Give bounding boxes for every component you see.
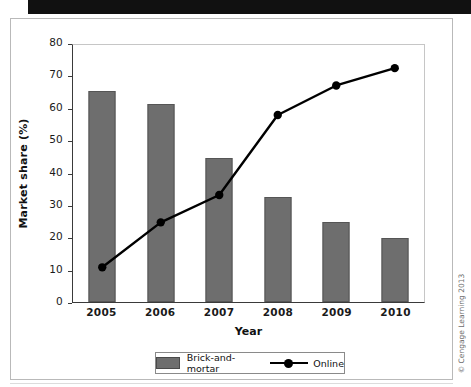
y-axis-tick-label: 60 <box>49 101 63 113</box>
online-line-path <box>102 68 395 267</box>
x-axis-tick-label: 2006 <box>131 306 190 322</box>
x-axis-tick-label: 2007 <box>190 306 249 322</box>
y-axis-tick-label: 40 <box>49 166 63 178</box>
line-series-online <box>73 45 424 302</box>
market-share-chart: Market share (%) 01020304050607080 20052… <box>0 0 471 387</box>
legend-label-brick-and-mortar: Brick-and-mortar <box>187 352 264 374</box>
legend-swatch-bar <box>156 357 180 369</box>
online-marker-2007 <box>215 191 223 199</box>
y-axis-tick-label: 30 <box>49 198 63 210</box>
y-axis-tick-label: 70 <box>49 68 63 80</box>
y-axis: 01020304050607080 <box>0 44 72 303</box>
online-marker-2006 <box>157 218 165 226</box>
online-marker-2009 <box>332 81 340 89</box>
y-axis-tick-label: 10 <box>49 263 63 275</box>
x-axis-tick-label: 2008 <box>248 306 307 322</box>
legend-label-online: Online <box>313 358 344 369</box>
x-axis-tick-label: 2010 <box>366 306 425 322</box>
online-marker-2010 <box>391 64 399 72</box>
online-marker-2008 <box>274 111 282 119</box>
page-bottom-rule <box>10 383 453 384</box>
x-axis: 200520062007200820092010 <box>72 306 425 322</box>
copyright-credit-label: © Cengage Learning 2013 <box>458 273 467 373</box>
plot-area <box>72 44 425 303</box>
online-marker-2005 <box>98 263 106 271</box>
x-axis-title: Year <box>72 325 425 338</box>
x-axis-tick-label: 2009 <box>307 306 366 322</box>
y-axis-tick-label: 0 <box>56 295 63 307</box>
x-axis-tick-label: 2005 <box>72 306 131 322</box>
y-axis-tick-label: 80 <box>49 36 63 48</box>
chart-legend: Brick-and-mortar Online <box>155 352 345 374</box>
copyright-credit: © Cengage Learning 2013 <box>455 268 469 378</box>
y-axis-tick-label: 20 <box>49 230 63 242</box>
y-axis-tick-label: 50 <box>49 133 63 145</box>
y-axis-tick-mark <box>68 303 72 304</box>
legend-swatch-line <box>270 358 306 368</box>
